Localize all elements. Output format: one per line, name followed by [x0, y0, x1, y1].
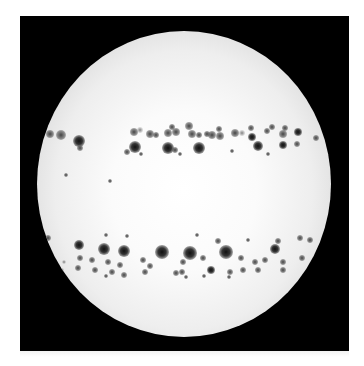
sunspot: [104, 233, 108, 237]
sunspot: [238, 255, 244, 261]
sunspot: [56, 130, 66, 140]
sunspot: [208, 131, 216, 139]
sunspot: [117, 262, 123, 268]
sunspot: [280, 267, 286, 273]
sunspot: [142, 269, 148, 275]
sunspot: [188, 130, 196, 138]
frame-shadow: [20, 351, 349, 357]
sunspot: [46, 130, 54, 138]
sunspot: [279, 130, 287, 138]
sunspot: [207, 266, 215, 274]
sunspot: [153, 132, 159, 138]
sunspot: [172, 147, 178, 153]
sunspot: [216, 132, 224, 140]
sunspot: [231, 129, 239, 137]
sunspot: [60, 268, 64, 272]
sunspot: [270, 244, 280, 254]
sunspot: [75, 265, 81, 271]
sunspot: [255, 267, 261, 273]
sunspot: [178, 152, 182, 156]
sunspot: [269, 124, 275, 130]
sunspot: [77, 255, 83, 261]
sunspot: [45, 235, 51, 241]
sunspot: [275, 238, 281, 244]
sunspot: [139, 152, 143, 156]
sunspot: [155, 245, 169, 259]
sunspot: [89, 257, 95, 263]
sunspot: [195, 233, 199, 237]
sunspot: [183, 246, 197, 260]
sunspot: [248, 125, 254, 131]
sunspot: [109, 269, 115, 275]
sunspot: [294, 128, 302, 136]
sunspot: [172, 128, 180, 136]
sunspot: [121, 272, 127, 278]
sunspot: [118, 245, 130, 257]
sunspot: [92, 267, 98, 273]
sunspot: [280, 259, 286, 265]
sunspot: [248, 133, 256, 141]
sunspot: [193, 142, 205, 154]
solar-disk: [37, 31, 331, 337]
sunspot: [239, 130, 245, 136]
sunspot: [164, 129, 172, 137]
sunspot: [62, 260, 66, 264]
sunspot: [252, 259, 258, 265]
sunspot: [307, 237, 313, 243]
sunspot: [64, 173, 68, 177]
sunspot: [202, 274, 206, 278]
sunspot: [299, 255, 305, 261]
sunspot: [279, 141, 287, 149]
sunspot: [105, 259, 111, 265]
sunspot: [219, 245, 233, 259]
sunspot: [297, 235, 303, 241]
sunspot: [98, 243, 110, 255]
sunspot: [240, 267, 246, 273]
sunspot: [184, 275, 188, 279]
sunspot: [253, 141, 263, 151]
sunspot: [108, 179, 112, 183]
sunspot: [246, 238, 250, 242]
sunspot: [262, 257, 268, 263]
sunspot: [180, 259, 186, 265]
sunspot: [294, 141, 300, 147]
sunspot: [215, 238, 221, 244]
sunspot: [137, 127, 143, 133]
sunspot: [282, 125, 288, 131]
sunspot: [230, 149, 234, 153]
sunspot: [74, 240, 84, 250]
sunspot: [147, 263, 153, 269]
sunspot: [185, 122, 193, 130]
sunspot: [125, 234, 129, 238]
sunspot: [200, 255, 206, 261]
sunspot: [227, 275, 231, 279]
sunspot: [104, 274, 108, 278]
sunspot: [124, 149, 130, 155]
sunspot: [196, 132, 202, 138]
sunspot: [140, 257, 146, 263]
sunspot: [77, 145, 83, 151]
sunspot: [179, 269, 185, 275]
sunspot: [313, 135, 319, 141]
sunspot: [266, 152, 270, 156]
